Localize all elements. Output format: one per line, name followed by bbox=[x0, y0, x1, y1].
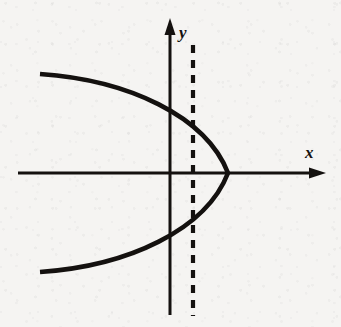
graph-svg: y x bbox=[0, 0, 341, 327]
x-axis-arrowhead-icon bbox=[309, 168, 326, 179]
x-axis-label: x bbox=[304, 143, 314, 162]
figure-canvas: y x bbox=[0, 0, 341, 327]
y-axis-arrowhead-icon bbox=[165, 18, 176, 35]
y-axis-label: y bbox=[177, 23, 187, 42]
